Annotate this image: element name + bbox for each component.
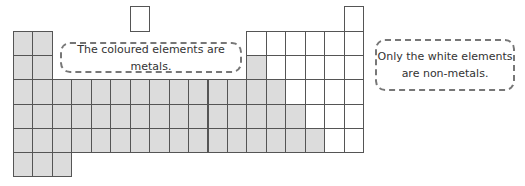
element-cell-metal [52,79,72,105]
element-cell-nonmetal [344,31,364,56]
element-cell-metal [130,79,150,105]
element-cell-nonmetal [324,128,345,153]
element-cell-metal [52,128,72,153]
element-cell-metal [246,128,267,153]
element-cell-metal [169,104,189,129]
element-cell-metal [130,104,150,129]
element-cell-metal [13,79,33,105]
element-cell-metal [71,104,92,129]
element-cell-metal [285,104,306,129]
periodic-table-diagram: The coloured elements are metals. Only t… [0,0,525,186]
element-cell-metal [110,128,131,153]
element-cell-metal [91,128,111,153]
element-cell-nonmetal [324,55,345,80]
nonmetals-callout-line-2: are non-metals. [378,65,513,82]
nonmetals-callout: Only the white elements are non-metals. [375,39,515,91]
element-cell-metal [91,79,111,105]
element-cell-nonmetal [305,104,325,129]
element-cell-metal [208,79,228,105]
element-cell-metal [227,104,247,129]
element-cell-metal [188,79,208,105]
element-cell-metal [71,79,92,105]
element-cell-nonmetal [285,31,306,56]
element-cell-metal [169,79,189,105]
element-cell-metal [52,152,72,177]
element-cell-metal [266,104,286,129]
element-cell-metal [169,128,189,153]
element-cell-nonmetal [285,55,306,80]
element-cell-metal [32,152,53,177]
element-cell-nonmetal [305,31,325,56]
element-cell-metal [149,104,170,129]
element-cell-nonmetal [344,128,364,153]
metals-callout: The coloured elements are metals. [60,42,242,73]
element-cell-metal [32,31,53,56]
element-cell-nonmetal [285,79,306,105]
element-cell-metal [110,79,131,105]
element-cell-metal [246,104,267,129]
element-cell-nonmetal [344,104,364,129]
element-cell-metal [91,104,111,129]
element-cell-nonmetal [305,79,325,105]
element-cell-metal [130,128,150,153]
element-cell-metal [52,104,72,129]
element-cell-metal [266,79,286,105]
element-cell-metal [285,128,306,153]
element-cell-metal [149,128,170,153]
element-cell-metal [13,31,33,56]
element-cell-nonmetal [305,55,325,80]
element-cell-nonmetal [130,6,150,32]
element-cell-metal [266,128,286,153]
element-cell-nonmetal [266,31,286,56]
element-cell-metal [13,55,33,80]
element-cell-metal [13,128,33,153]
element-cell-metal [32,104,53,129]
element-cell-metal [208,104,228,129]
element-cell-metal [110,104,131,129]
element-cell-nonmetal [344,55,364,80]
element-cell-nonmetal [324,31,345,56]
element-cell-metal [227,79,247,105]
element-cell-metal [13,152,33,177]
element-cell-metal [188,128,208,153]
element-cell-nonmetal [344,79,364,105]
element-cell-metal [32,128,53,153]
element-cell-metal [32,79,53,105]
element-cell-metal [227,128,247,153]
element-cell-metal [71,128,92,153]
element-cell-nonmetal [324,104,345,129]
element-cell-metal [246,55,267,80]
element-cell-metal [188,104,208,129]
element-cell-metal [305,128,325,153]
element-cell-nonmetal [246,31,267,56]
nonmetals-callout-line-1: Only the white elements [378,48,513,65]
element-cell-nonmetal [324,79,345,105]
element-cell-metal [13,104,33,129]
element-cell-metal [149,79,170,105]
element-cell-metal [208,128,228,153]
element-cell-metal [246,79,267,105]
element-cell-nonmetal [344,6,364,32]
element-cell-nonmetal [266,55,286,80]
metals-callout-text: The coloured elements are metals. [62,41,240,75]
element-cell-metal [32,55,53,80]
